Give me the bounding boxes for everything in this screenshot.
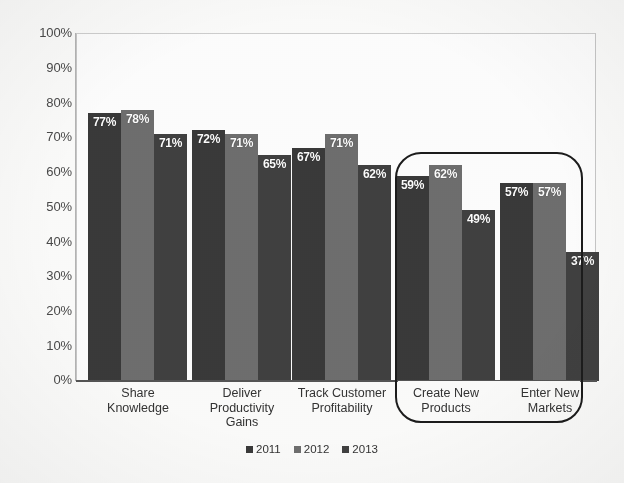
- bar[interactable]: 71%: [325, 134, 358, 381]
- bar-group: 72%71%65%: [192, 33, 291, 381]
- bar-value-label: 62%: [429, 168, 462, 181]
- legend-item[interactable]: 2012: [294, 443, 330, 455]
- bar[interactable]: 37%: [566, 252, 599, 381]
- bar[interactable]: 77%: [88, 113, 121, 381]
- bar-value-label: 77%: [88, 116, 121, 129]
- legend-swatch-icon: [342, 446, 349, 453]
- y-tick-50: 50%: [26, 200, 72, 213]
- bar-value-label: 71%: [154, 137, 187, 150]
- bar-value-label: 72%: [192, 133, 225, 146]
- y-tick-0: 0%: [26, 373, 72, 386]
- y-tick-10: 10%: [26, 339, 72, 352]
- bar-chart: 100% 90% 80% 70% 60% 50% 40% 30% 20% 10%…: [0, 0, 624, 483]
- bar-value-label: 62%: [358, 168, 391, 181]
- bar[interactable]: 71%: [154, 134, 187, 381]
- y-tick-100: 100%: [26, 26, 72, 39]
- bar-value-label: 71%: [225, 137, 258, 150]
- bar-value-label: 65%: [258, 158, 291, 171]
- y-tick-60: 60%: [26, 165, 72, 178]
- bar[interactable]: 57%: [533, 183, 566, 381]
- bar-group: 59%62%49%: [396, 33, 495, 381]
- bar[interactable]: 49%: [462, 210, 495, 381]
- y-tick-80: 80%: [26, 96, 72, 109]
- bar[interactable]: 57%: [500, 183, 533, 381]
- bar[interactable]: 62%: [429, 165, 462, 381]
- y-axis-tick-labels: 100% 90% 80% 70% 60% 50% 40% 30% 20% 10%…: [16, 0, 72, 483]
- bar[interactable]: 67%: [292, 148, 325, 381]
- bar-groups: 77%78%71%72%71%65%67%71%62%59%62%49%57%5…: [76, 33, 596, 381]
- y-tick-40: 40%: [26, 235, 72, 248]
- y-tick-70: 70%: [26, 130, 72, 143]
- bar-value-label: 57%: [533, 186, 566, 199]
- bar-value-label: 37%: [566, 255, 599, 268]
- legend-label: 2013: [352, 443, 378, 455]
- chart-legend: 201120122013: [0, 443, 624, 455]
- bar[interactable]: 71%: [225, 134, 258, 381]
- legend-item[interactable]: 2011: [246, 443, 281, 455]
- legend-label: 2012: [304, 443, 330, 455]
- x-axis-category-labels: ShareKnowledgeDeliverProductivityGainsTr…: [76, 386, 596, 442]
- bar[interactable]: 62%: [358, 165, 391, 381]
- bar[interactable]: 72%: [192, 130, 225, 381]
- bar[interactable]: 59%: [396, 176, 429, 381]
- bar-group: 57%57%37%: [500, 33, 599, 381]
- category-label: Enter NewMarkets: [483, 386, 617, 415]
- legend-swatch-icon: [294, 446, 301, 453]
- bar[interactable]: 65%: [258, 155, 291, 381]
- bar-value-label: 67%: [292, 151, 325, 164]
- legend-swatch-icon: [246, 446, 253, 453]
- y-tick-90: 90%: [26, 61, 72, 74]
- bar-value-label: 71%: [325, 137, 358, 150]
- legend-label: 2011: [256, 443, 281, 455]
- bar-value-label: 49%: [462, 213, 495, 226]
- bar-value-label: 78%: [121, 113, 154, 126]
- bar-group: 77%78%71%: [88, 33, 187, 381]
- y-tick-20: 20%: [26, 304, 72, 317]
- bar-value-label: 59%: [396, 179, 429, 192]
- legend-item[interactable]: 2013: [342, 443, 378, 455]
- y-tick-30: 30%: [26, 269, 72, 282]
- bar[interactable]: 78%: [121, 110, 154, 381]
- bar-group: 67%71%62%: [292, 33, 391, 381]
- bar-value-label: 57%: [500, 186, 533, 199]
